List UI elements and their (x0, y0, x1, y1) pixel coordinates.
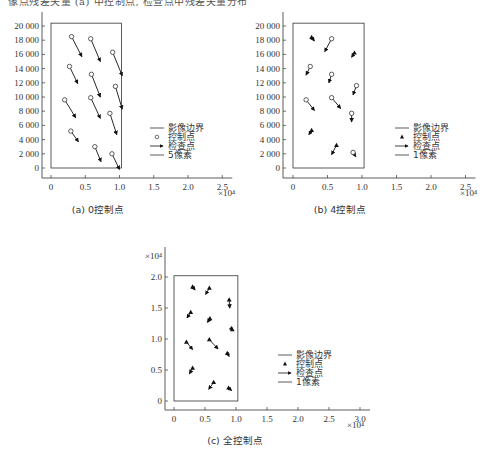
y-tick-label: 14 000 (255, 64, 280, 74)
y-tick-label: 20 000 (255, 21, 280, 31)
y-tick-label: 8 000 (19, 106, 40, 116)
x-tick-label: 0.5 (80, 182, 92, 192)
y-tick-label: 14 000 (14, 64, 39, 74)
residual-vector (91, 98, 101, 119)
residual-vector (91, 39, 101, 62)
check-point-marker (93, 145, 97, 149)
legend-scale: 1像素 (395, 149, 437, 160)
check-point-marker (329, 96, 333, 100)
x-tick-label: 1.5 (391, 182, 403, 192)
y-tick-label: 18 000 (255, 35, 280, 45)
control-point-marker (226, 385, 231, 389)
y-tick-label: 0 (276, 163, 281, 173)
check-point-marker (351, 150, 355, 154)
check-point-marker (308, 64, 312, 68)
control-point-marker (352, 50, 357, 54)
x-tick-label: 1.5 (261, 414, 273, 424)
x-tick-label: 2.5 (323, 414, 335, 424)
triangle-icon (283, 362, 287, 366)
chart-a-0-control-points: 20 00018 00016 00014 00012 00010 0008 00… (14, 12, 235, 215)
legend-scale: 5像素 (150, 149, 192, 160)
y-tick-label: 2 000 (260, 149, 281, 159)
y-tick-label: 16 000 (14, 49, 39, 59)
residual-vector (69, 66, 77, 83)
x-scale-label: ×10⁴ (460, 188, 477, 198)
check-point-marker (89, 72, 93, 76)
y-tick-label: 0 (158, 396, 163, 406)
x-tick-label: 0.5 (199, 414, 211, 424)
control-point-marker (211, 380, 216, 384)
y-tick-label: 1.0 (151, 334, 163, 344)
y-tick-label: 6 000 (260, 120, 281, 130)
figure-canvas: 20 00018 00016 00014 00012 00010 0008 00… (0, 0, 496, 450)
y-tick-label: 2 000 (19, 149, 40, 159)
check-point-marker (69, 34, 73, 38)
legend-scale: 1像素 (278, 376, 320, 387)
residual-vector (72, 37, 82, 57)
y-scale-label: ×10⁴ (145, 251, 162, 261)
y-tick-label: 2.0 (151, 272, 163, 282)
control-point-marker (190, 366, 195, 370)
y-tick-label: 4 000 (260, 135, 281, 145)
svg-text:5像素: 5像素 (168, 149, 192, 160)
chart-b-4-control-points: 20 00018 00016 00014 00012 00010 0008 00… (255, 12, 477, 215)
y-tick-label: 20 000 (14, 21, 39, 31)
check-point-marker (108, 111, 112, 115)
check-point-marker (354, 83, 358, 87)
y-tick-label: 18 000 (14, 35, 39, 45)
residual-vector (113, 52, 123, 75)
check-point-marker (329, 72, 333, 76)
chart-caption: (a) 0控制点 (72, 204, 124, 215)
x-tick-label: 0 (49, 182, 54, 192)
x-tick-label: 1.0 (114, 182, 126, 192)
x-tick-label: 0 (172, 414, 177, 424)
check-point-marker (62, 98, 66, 102)
y-tick-label: 10 000 (255, 92, 280, 102)
check-point-marker (304, 98, 308, 102)
chart-caption: (b) 4控制点 (314, 204, 367, 215)
y-tick-label: 0.5 (151, 365, 163, 375)
residual-vector (65, 100, 76, 118)
y-tick-label: 1.5 (151, 303, 163, 313)
control-point-marker (227, 297, 232, 301)
triangle-icon (400, 135, 404, 139)
svg-text:1像素: 1像素 (413, 149, 437, 160)
residual-vector (110, 113, 117, 134)
control-point-marker (207, 286, 212, 290)
x-scale-label: ×10⁴ (218, 188, 235, 198)
y-tick-label: 0 (35, 163, 40, 173)
y-tick-label: 16 000 (255, 49, 280, 59)
svg-text:1像素: 1像素 (296, 376, 320, 387)
control-point-marker (225, 351, 230, 355)
y-tick-label: 6 000 (19, 120, 40, 130)
check-point-marker (110, 152, 114, 156)
x-tick-label: 2.0 (425, 182, 437, 192)
control-point-marker (190, 284, 195, 288)
y-tick-label: 12 000 (14, 78, 39, 88)
x-tick-label: 0 (291, 182, 296, 192)
circle-icon (155, 135, 159, 139)
residual-vector (112, 154, 120, 170)
check-point-marker (113, 84, 117, 88)
image-boundary (51, 23, 122, 168)
control-point-marker (188, 310, 193, 314)
check-point-marker (110, 50, 114, 54)
chart-caption: (c) 全控制点 (207, 435, 263, 446)
control-point-marker (208, 316, 213, 320)
chart-c-all-control-points: 2.01.51.00.50×10⁴00.51.01.52.02.53.0×10⁴… (145, 247, 370, 446)
control-point-marker (309, 35, 314, 39)
x-tick-label: 1.5 (148, 182, 160, 192)
check-point-marker (349, 111, 353, 115)
y-tick-label: 8 000 (260, 106, 281, 116)
x-scale-label: ×10⁴ (347, 420, 364, 430)
x-tick-label: 0.5 (322, 182, 334, 192)
control-point-marker (334, 143, 339, 147)
control-point-marker (207, 337, 212, 341)
y-tick-label: 12 000 (255, 78, 280, 88)
x-tick-label: 2.0 (182, 182, 194, 192)
check-point-marker (89, 37, 93, 41)
check-point-marker (67, 64, 71, 68)
x-tick-label: 2.0 (292, 414, 304, 424)
control-point-marker (230, 327, 235, 331)
check-point-marker (89, 96, 93, 100)
